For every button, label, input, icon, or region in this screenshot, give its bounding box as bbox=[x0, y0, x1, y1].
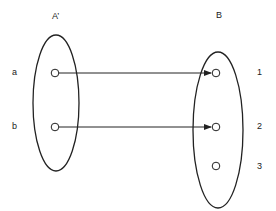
element-label-2: 2 bbox=[257, 122, 262, 131]
element-label-a: a bbox=[12, 68, 17, 77]
set-a-label: A’ bbox=[52, 12, 59, 21]
point-b bbox=[51, 123, 59, 131]
set-b-label: B bbox=[216, 11, 222, 20]
mapping-diagram bbox=[0, 0, 276, 211]
element-label-1: 1 bbox=[257, 68, 262, 77]
point-1 bbox=[212, 69, 220, 77]
set-a-ellipse bbox=[33, 35, 79, 171]
point-3 bbox=[212, 162, 220, 170]
point-2 bbox=[212, 123, 220, 131]
point-a bbox=[51, 69, 59, 77]
element-label-b: b bbox=[12, 122, 17, 131]
element-label-3: 3 bbox=[257, 162, 262, 171]
